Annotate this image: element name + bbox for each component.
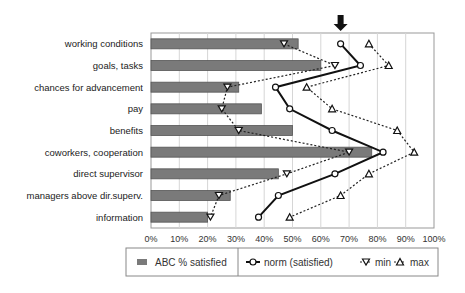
- arrow-down-icon: [338, 15, 344, 24]
- bar: [151, 169, 278, 179]
- category-label: direct supervisor: [73, 168, 143, 179]
- legend-label: ABC % satisfied: [155, 257, 227, 268]
- category-label: goals, tasks: [93, 60, 143, 71]
- circle-marker-icon: [273, 84, 279, 90]
- circle-marker-icon: [250, 259, 256, 265]
- x-tick-label: 50%: [283, 234, 301, 244]
- category-label: coworkers, cooperation: [45, 147, 143, 158]
- legend-label: norm (satisfied): [264, 257, 333, 268]
- x-tick-label: 40%: [255, 234, 273, 244]
- legend-label: min: [375, 257, 391, 268]
- bar: [151, 212, 208, 222]
- category-label: information: [96, 212, 143, 223]
- category-label: pay: [128, 103, 144, 114]
- bar: [151, 147, 372, 157]
- circle-marker-icon: [357, 63, 363, 69]
- x-tick-label: 10%: [170, 234, 188, 244]
- legend-label: max: [410, 257, 429, 268]
- arrow-down-icon: [334, 24, 348, 31]
- x-tick-label: 70%: [340, 234, 358, 244]
- x-tick-label: 100%: [422, 234, 445, 244]
- bar: [151, 39, 298, 49]
- circle-marker-icon: [338, 41, 344, 47]
- circle-marker-icon: [380, 149, 386, 155]
- circle-marker-icon: [275, 193, 281, 199]
- x-tick-label: 80%: [368, 234, 386, 244]
- x-tick-label: 20%: [199, 234, 217, 244]
- x-tick-label: 60%: [312, 234, 330, 244]
- x-tick-label: 90%: [397, 234, 415, 244]
- legend: ABC % satisfiednorm (satisfied)minmax: [126, 248, 438, 276]
- x-tick-label: 30%: [227, 234, 245, 244]
- category-label: chances for advancement: [34, 82, 143, 93]
- circle-marker-icon: [287, 106, 293, 112]
- bar: [151, 126, 293, 136]
- bar: [151, 61, 321, 71]
- circle-marker-icon: [256, 214, 262, 220]
- category-label: managers above dir.superv.: [26, 190, 143, 201]
- chart: 0%10%20%30%40%50%60%70%80%90%100%working…: [0, 0, 465, 293]
- category-label: working conditions: [64, 38, 143, 49]
- category-label: benefits: [110, 125, 144, 136]
- x-tick-label: 0%: [144, 234, 157, 244]
- circle-marker-icon: [332, 171, 338, 177]
- bar: [151, 104, 261, 114]
- circle-marker-icon: [329, 128, 335, 134]
